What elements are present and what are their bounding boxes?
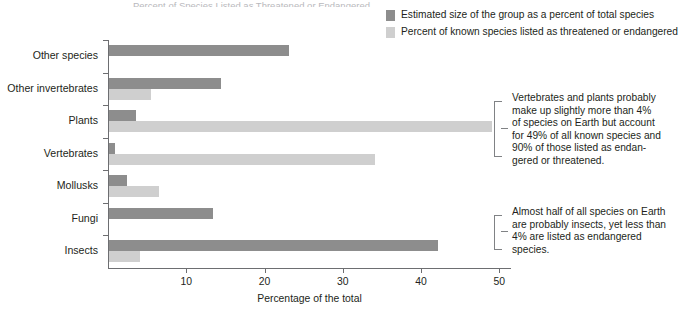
- bar-group-vertebrates: Vertebrates: [108, 138, 511, 171]
- bar-group-other-species: Other species: [108, 40, 511, 73]
- y-axis-label-plants: Plants: [69, 114, 98, 127]
- x-axis-line: [108, 268, 511, 269]
- bar-listed-insects: [109, 251, 140, 262]
- annotation-bracket-stem-vertebrates-plants: [501, 128, 508, 129]
- x-tick-10: [186, 268, 187, 273]
- annotation-line: are probably insects, yet less than: [512, 219, 674, 232]
- plot-area: Other species Other invertebrates Plants…: [108, 40, 511, 268]
- bar-estimated-plants: [109, 110, 136, 121]
- legend-label-percent-listed: Percent of known species listed as threa…: [401, 26, 678, 38]
- chart-legend: Estimated size of the group as a percent…: [386, 9, 672, 43]
- bar-listed-other-invertebrates: [109, 89, 151, 100]
- annotation-line: 90% of those listed as endan-: [512, 142, 670, 155]
- bar-estimated-mollusks: [109, 175, 127, 186]
- bar-estimated-fungi: [109, 208, 213, 219]
- bar-listed-vertebrates: [109, 154, 375, 165]
- chart-title-clipped: Percent of Species Listed as Threatened …: [133, 0, 393, 7]
- y-axis-label-other-species: Other species: [33, 49, 98, 62]
- x-tick-40: [421, 268, 422, 273]
- annotation-line: Vertebrates and plants probably: [512, 92, 670, 105]
- bar-group-fungi: Fungi: [108, 203, 511, 236]
- x-tick-label-30: 30: [323, 276, 363, 287]
- annotation-vertebrates-plants: Vertebrates and plants probably make up …: [512, 92, 670, 168]
- bar-group-mollusks: Mollusks: [108, 170, 511, 203]
- annotation-line: for 49% of all known species and: [512, 130, 670, 143]
- annotation-line: make up slightly more than 4%: [512, 105, 670, 118]
- y-axis-label-fungi: Fungi: [72, 212, 99, 225]
- y-tick-6: [103, 235, 108, 236]
- bar-group-plants: Plants: [108, 105, 511, 138]
- y-tick-5: [103, 203, 108, 204]
- x-tick-label-20: 20: [245, 276, 285, 287]
- legend-swatch-dark: [386, 10, 395, 21]
- annotation-line: Almost half of all species on Earth: [512, 206, 674, 219]
- y-axis-label-other-invertebrates: Other invertebrates: [7, 82, 98, 95]
- x-tick-20: [265, 268, 266, 273]
- legend-item-percent-listed: Percent of known species listed as threa…: [386, 26, 672, 40]
- y-axis-label-mollusks: Mollusks: [57, 179, 98, 192]
- bar-estimated-other-invertebrates: [109, 78, 221, 89]
- bar-group-other-invertebrates: Other invertebrates: [108, 73, 511, 106]
- bar-listed-mollusks: [109, 186, 159, 197]
- legend-swatch-light: [386, 27, 395, 38]
- annotation-bracket-stem-insects: [501, 231, 508, 232]
- legend-item-estimated-size: Estimated size of the group as a percent…: [386, 9, 672, 23]
- bar-listed-plants: [109, 121, 492, 132]
- bar-estimated-vertebrates: [109, 143, 115, 154]
- annotation-bracket-insects: [494, 215, 502, 250]
- y-tick-4: [103, 170, 108, 171]
- legend-label-estimated-size: Estimated size of the group as a percent…: [401, 9, 654, 21]
- annotation-insects: Almost half of all species on Earth are …: [512, 206, 674, 256]
- annotation-line: gered or threatened.: [512, 155, 670, 168]
- annotation-bracket-vertebrates-plants: [494, 101, 502, 157]
- bar-estimated-insects: [109, 240, 438, 251]
- y-tick-1: [103, 73, 108, 74]
- x-tick-label-10: 10: [166, 276, 206, 287]
- x-tick-30: [343, 268, 344, 273]
- annotation-line: 4% are listed as endangered species.: [512, 231, 674, 256]
- y-tick-3: [103, 138, 108, 139]
- y-axis-label-vertebrates: Vertebrates: [44, 147, 98, 160]
- y-axis-label-insects: Insects: [64, 244, 98, 257]
- bar-estimated-other-species: [109, 45, 289, 56]
- y-tick-2: [103, 105, 108, 106]
- x-tick-label-50: 50: [479, 276, 519, 287]
- annotation-line: of species on Earth but account: [512, 117, 670, 130]
- x-tick-label-40: 40: [401, 276, 441, 287]
- x-tick-50: [499, 268, 500, 273]
- bar-group-insects: Insects: [108, 235, 511, 268]
- y-tick-0: [103, 40, 108, 41]
- x-axis-title: Percentage of the total: [108, 293, 511, 304]
